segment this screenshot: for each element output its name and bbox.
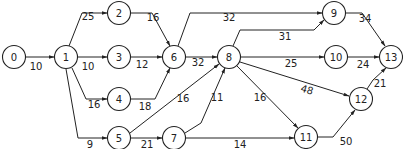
edge-7-8: 11 (185, 68, 225, 133)
edge-arrow (72, 68, 107, 99)
edge-weight-label: 16 (177, 93, 190, 104)
edge-1-4: 16 (72, 68, 107, 110)
node-label: 9 (331, 8, 337, 19)
edge-11-12: 50 (318, 110, 355, 147)
node-label: 11 (300, 132, 313, 143)
edge-weight-label: 32 (192, 57, 205, 68)
edge-arrow (237, 66, 298, 128)
edge-weight-label: 14 (234, 139, 247, 149)
node-8: 8 (218, 46, 241, 69)
edge-12-13: 21 (367, 68, 386, 89)
node-label: 5 (116, 133, 122, 144)
node-label: 6 (171, 52, 177, 63)
node-7: 7 (163, 127, 186, 150)
node-2: 2 (108, 2, 131, 25)
edge-8-11: 16 (237, 66, 298, 128)
node-label: 3 (116, 52, 122, 63)
edge-7-11: 14 (186, 138, 294, 149)
edge-1-5: 9 (66, 69, 107, 149)
edge-9-13: 34 (346, 13, 385, 46)
edge-1-2: 25 (69, 11, 107, 46)
edge-arrow (318, 110, 355, 137)
node-label: 12 (355, 94, 368, 105)
edge-weight-label: 50 (340, 136, 353, 147)
edge-weight-label: 12 (136, 59, 149, 70)
edge-4-6: 18 (131, 68, 170, 112)
node-label: 1 (63, 52, 69, 63)
node-12: 12 (350, 88, 373, 111)
edge-10-13: 24 (348, 57, 379, 70)
edge-1-3: 10 (78, 57, 107, 72)
edge-arrow (66, 69, 107, 138)
node-10: 10 (325, 46, 348, 69)
edge-weight-label: 31 (279, 31, 292, 42)
edge-weight-label: 16 (88, 99, 101, 110)
node-label: 0 (11, 52, 17, 63)
edge-weight-label: 18 (139, 101, 152, 112)
node-label: 4 (116, 94, 122, 105)
edge-5-7: 21 (131, 138, 162, 149)
node-13: 13 (380, 46, 403, 69)
edge-weight-label: 11 (211, 92, 224, 103)
edge-weight-label: 25 (82, 11, 95, 22)
node-label: 10 (330, 52, 343, 63)
node-label: 8 (226, 52, 232, 63)
node-9: 9 (323, 2, 346, 25)
edge-weight-label: 9 (87, 139, 93, 149)
node-label: 13 (385, 52, 398, 63)
node-1: 1 (55, 46, 78, 69)
edge-weight-label: 10 (30, 61, 43, 72)
edge-weight-label: 21 (374, 78, 387, 89)
edge-arrow (131, 68, 170, 99)
edge-weight-label: 21 (141, 139, 154, 149)
network-diagram: 1025101691612183232162111143125481624342… (0, 0, 403, 149)
edge-weight-label: 10 (82, 61, 95, 72)
edge-0-1: 10 (26, 57, 54, 72)
edge-weight-label: 16 (147, 12, 160, 23)
edges-layer: 1025101691612183232162111143125481624342… (26, 11, 386, 149)
node-11: 11 (295, 126, 318, 149)
edge-weight-label: 24 (357, 59, 370, 70)
edge-weight-label: 16 (254, 92, 267, 103)
node-6: 6 (163, 46, 186, 69)
nodes-layer: 012345678910111213 (3, 2, 403, 150)
node-5: 5 (108, 127, 131, 150)
node-label: 2 (116, 8, 122, 19)
edge-6-8: 32 (186, 57, 217, 68)
edge-3-6: 12 (131, 57, 162, 70)
edge-6-9: 32 (178, 12, 322, 46)
edge-8-10: 25 (241, 57, 324, 69)
edge-weight-label: 25 (285, 58, 298, 69)
node-0: 0 (3, 46, 26, 69)
edge-2-6: 16 (131, 12, 170, 46)
node-label: 7 (171, 133, 177, 144)
edge-weight-label: 48 (299, 83, 314, 97)
node-3: 3 (108, 46, 131, 69)
node-4: 4 (108, 88, 131, 111)
edge-weight-label: 34 (359, 13, 372, 24)
edge-weight-label: 32 (223, 12, 236, 23)
edge-8-9: 31 (233, 20, 324, 46)
